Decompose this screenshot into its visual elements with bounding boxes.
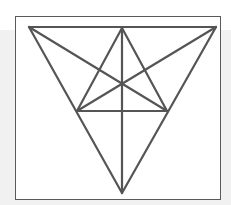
triangle-diagram: [0, 0, 231, 205]
